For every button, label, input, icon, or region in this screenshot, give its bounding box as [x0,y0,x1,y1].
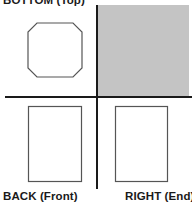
octagon-view-shape [28,23,82,77]
back-front-label: BACK (Front) [3,191,78,203]
diagram-svg [0,0,192,204]
back-view-rectangle [29,107,82,182]
right-end-label: RIGHT (End) [125,191,192,203]
bottom-top-label: BOTTOM (Top) [3,0,85,7]
projection-diagram: BOTTOM (Top) BACK (Front) RIGHT (End) [0,0,192,204]
shaded-quadrant [98,5,189,96]
right-view-rectangle [116,107,168,182]
